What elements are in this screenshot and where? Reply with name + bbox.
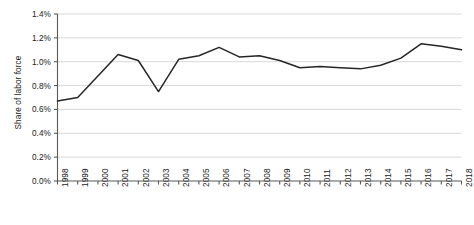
axis-lines: [58, 14, 462, 181]
data-series-line: [58, 44, 462, 101]
gridlines: [58, 14, 462, 157]
x-axis-tick-marks: [58, 181, 462, 185]
